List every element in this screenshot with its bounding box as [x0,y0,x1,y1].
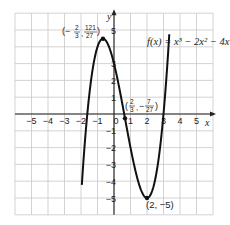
x-tick-label: 2 [144,116,149,126]
x-tick-label: 5 [194,116,199,126]
y-tick-label: 5 [111,26,116,36]
x-tick-label: −4 [43,116,53,126]
svg-text:7: 7 [147,98,151,105]
x-axis-label: x [204,117,210,128]
svg-text:): ) [97,26,100,36]
y-tick-label: −1 [106,126,116,136]
y-tick-label: −5 [106,194,116,204]
y-tick-label: 1 [111,93,116,103]
svg-text:−: − [139,101,144,111]
x-tick-label: 0 [113,116,118,126]
svg-text:): ) [155,101,158,111]
function-label: f(x) = x³ − 2x² − 4x + 3 [147,36,230,48]
inflection-point-marker [123,116,127,120]
svg-text:,: , [81,29,83,38]
x-tick-label: 1 [128,116,133,126]
x-tick-label: −5 [26,116,36,126]
y-axis-arrow-icon [112,9,117,15]
y-tick-label: −3 [106,160,116,170]
x-tick-label: 4 [177,116,182,126]
key-points [101,37,149,201]
svg-text:2: 2 [75,24,79,31]
x-tick-label: −1 [92,116,102,126]
local-maximum-marker [101,37,105,41]
svg-text:2: 2 [130,98,134,105]
y-tick-label: −2 [106,143,116,153]
y-axis-label: y [106,11,112,22]
y-tick-label: 2 [111,76,116,86]
svg-text:3: 3 [130,106,134,113]
svg-text:27: 27 [86,32,94,39]
graph-canvas: −5−4−3−2−10123455321−1−2−3−4−5 f(x) = x³… [0,0,230,225]
inflection-point-label: ( 2 3 , − 7 27 ) [125,98,158,113]
svg-text:(−: (− [62,26,70,36]
svg-text:27: 27 [146,106,154,113]
min-point-label: (2, −5) [146,199,174,210]
function-graph: −5−4−3−2−10123455321−1−2−3−4−5 f(x) = x³… [0,0,230,225]
svg-text:121: 121 [85,24,96,31]
svg-text:3: 3 [75,32,79,39]
svg-text:,: , [136,103,138,112]
y-tick-label: −4 [106,177,116,187]
x-tick-label: −3 [59,116,69,126]
svg-text:(: ( [125,101,128,111]
x-tick-label: −2 [76,116,86,126]
